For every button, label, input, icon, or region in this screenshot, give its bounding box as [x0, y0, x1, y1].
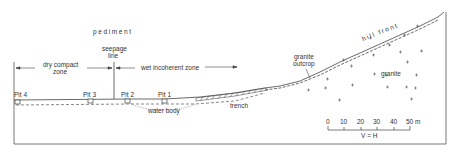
water-body-label: water body — [147, 107, 181, 115]
ground-surface — [14, 12, 444, 100]
trench-label: trench — [230, 102, 248, 109]
scale-tick-30: 30 — [373, 118, 381, 125]
scale-tick-0: 0 — [326, 118, 330, 125]
outcrop-pointer — [306, 69, 310, 78]
trench-hatch — [196, 88, 268, 101]
seepage-label-line2: line — [108, 52, 119, 59]
granite-label: granite — [381, 70, 401, 78]
pit-3-label: Pit 3 — [83, 91, 96, 98]
pit-2-label: Pit 2 — [121, 91, 134, 98]
wet-zone-label: wet incoherent zone — [140, 64, 200, 71]
scale-tick-40: 40 — [390, 118, 398, 125]
dry-zone-label-line2: zone — [53, 68, 67, 75]
pediment-label: pediment — [93, 28, 133, 36]
pit-4-label: Pit 4 — [14, 91, 27, 98]
hill-front-label: hill front — [361, 21, 400, 42]
cross-section-diagram: pediment hill front seepage line dry com… — [0, 0, 460, 149]
scale-bar — [328, 126, 410, 130]
scale-tick-10: 10 — [340, 118, 348, 125]
scale-note: V = H — [361, 132, 378, 139]
scale-tick-50: 50 m — [406, 118, 420, 125]
granite-outcrop-label-line2: outcrop — [293, 60, 315, 68]
pit-1-label: Pit 1 — [158, 91, 171, 98]
scale-tick-20: 20 — [357, 118, 365, 125]
